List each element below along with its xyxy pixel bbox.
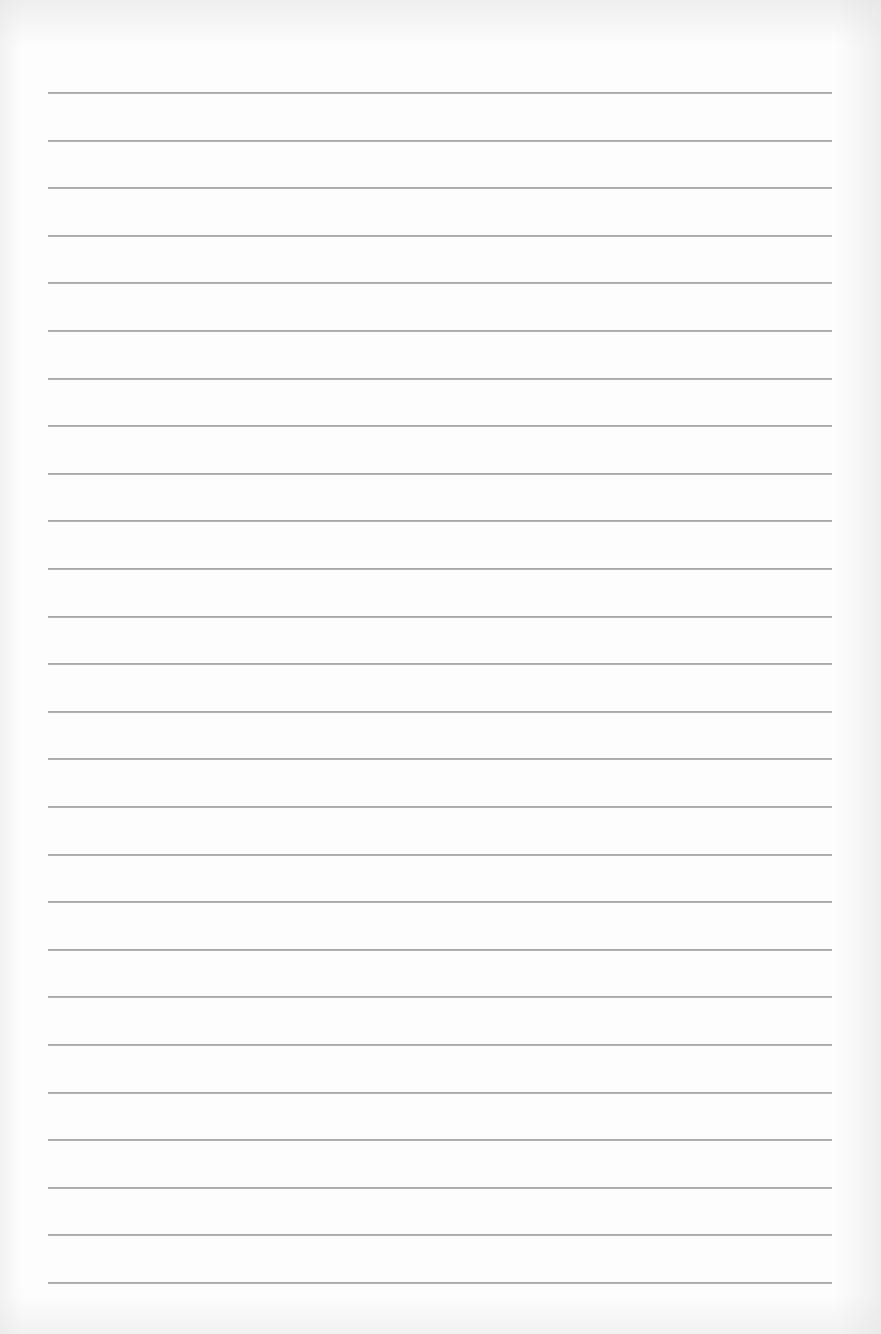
ruled-line	[48, 187, 832, 189]
ruled-line	[48, 1044, 832, 1046]
ruled-line	[48, 1139, 832, 1141]
ruled-line	[48, 568, 832, 570]
ruled-line	[48, 140, 832, 142]
ruled-line	[48, 711, 832, 713]
ruled-line	[48, 901, 832, 903]
ruled-lines	[48, 0, 832, 1334]
ruled-line	[48, 758, 832, 760]
ruled-line	[48, 378, 832, 380]
ruled-line	[48, 425, 832, 427]
ruled-line	[48, 949, 832, 951]
right-edge-shadow	[836, 0, 881, 1334]
ruled-line	[48, 663, 832, 665]
ruled-line	[48, 520, 832, 522]
ruled-line	[48, 282, 832, 284]
ruled-line	[48, 806, 832, 808]
ruled-line	[48, 854, 832, 856]
ruled-line	[48, 1234, 832, 1236]
ruled-line	[48, 1282, 832, 1284]
ruled-line	[48, 616, 832, 618]
ruled-line	[48, 1187, 832, 1189]
ruled-line	[48, 473, 832, 475]
ruled-line	[48, 235, 832, 237]
ruled-line	[48, 92, 832, 94]
ruled-line	[48, 996, 832, 998]
left-edge-shadow	[0, 0, 22, 1334]
ruled-line	[48, 330, 832, 332]
ruled-line	[48, 1092, 832, 1094]
lined-paper-page	[0, 0, 881, 1334]
